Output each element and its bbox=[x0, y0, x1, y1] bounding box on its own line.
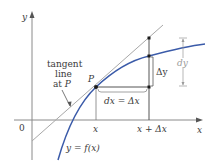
point-tangent-at-x-plus-dx bbox=[148, 37, 151, 40]
origin-label: 0 bbox=[19, 123, 25, 133]
point-corner bbox=[148, 86, 151, 89]
dy-arrow-up-icon bbox=[182, 39, 185, 43]
delta-y-label: Δy bbox=[156, 67, 168, 77]
function-label: y = f(x) bbox=[65, 143, 100, 153]
dx-label: dx = Δx bbox=[104, 96, 140, 106]
differential-diagram: y x 0 dx = Δx Δy dy P tangent bbox=[0, 0, 213, 166]
delta-y-bracket bbox=[151, 57, 153, 86]
point-curve-at-x-plus-dx bbox=[148, 55, 151, 58]
tick-label-x-plus-dx: x + Δx bbox=[137, 124, 167, 134]
x-axis-arrow-icon bbox=[196, 118, 203, 123]
point-P bbox=[94, 85, 98, 89]
dy-label: dy bbox=[177, 58, 189, 68]
y-axis-label: y bbox=[21, 12, 28, 22]
tangent-annotation-line3: at P bbox=[53, 79, 72, 89]
tick-label-x: x bbox=[93, 124, 98, 134]
tangent-at-prefix: at bbox=[53, 79, 65, 89]
x-axis-label: x bbox=[197, 125, 202, 135]
tangent-at-point: P bbox=[64, 79, 72, 89]
tangent-annotation-line1: tangent bbox=[47, 59, 83, 69]
point-P-label: P bbox=[87, 74, 95, 84]
dy-arrow-down-icon bbox=[182, 82, 185, 86]
x-axis bbox=[14, 118, 203, 123]
tangent-annotation-line2: line bbox=[55, 69, 72, 79]
y-axis-arrow-icon bbox=[30, 11, 35, 18]
dx-brace bbox=[98, 89, 147, 92]
y-axis bbox=[30, 11, 35, 160]
